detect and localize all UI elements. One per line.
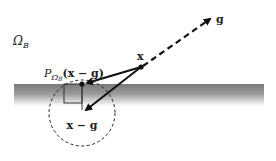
projection-diagram: ΩB x g PΩB(x − g) x − g	[0, 0, 276, 161]
constraint-region-band	[14, 84, 264, 106]
difference-label: x − g	[66, 119, 97, 132]
direction-g-arrow	[143, 19, 210, 66]
region-label: ΩB	[12, 34, 29, 50]
point-g-label: g	[216, 13, 224, 26]
point-x	[138, 64, 143, 69]
point-x-label: x	[137, 50, 144, 63]
projection-label: PΩB(x − g)	[43, 67, 104, 82]
point-projection	[79, 81, 84, 86]
